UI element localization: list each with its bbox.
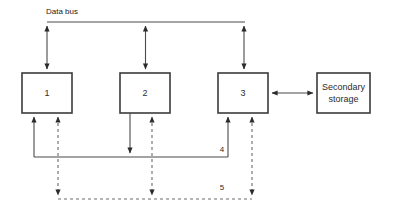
diagram-svg: Data bus 1 2 3 Secondary storage 4 5 xyxy=(0,0,397,214)
secondary-storage-label-line2: storage xyxy=(328,94,358,104)
bus-4-label: 4 xyxy=(220,145,225,154)
unit-box-2-label: 2 xyxy=(142,88,147,98)
bus-5-label: 5 xyxy=(220,183,225,192)
unit-box-3-label: 3 xyxy=(240,88,245,98)
data-bus-label: Data bus xyxy=(46,7,78,16)
diagram-canvas: Data bus 1 2 3 Secondary storage 4 5 xyxy=(0,0,397,214)
secondary-storage-label-line1: Secondary xyxy=(322,82,366,92)
secondary-storage-box[interactable] xyxy=(317,73,370,113)
unit-box-1-label: 1 xyxy=(44,88,49,98)
